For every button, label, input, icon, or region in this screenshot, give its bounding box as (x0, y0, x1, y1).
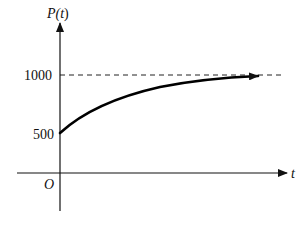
origin-label: O (44, 177, 54, 192)
population-curve (60, 76, 258, 133)
x-axis-label: t (291, 166, 296, 181)
y-axis-label: P(t) (46, 6, 69, 22)
tick-label-500: 500 (33, 127, 54, 142)
population-graph: P(t) 1000 500 O t (0, 0, 305, 226)
tick-label-1000: 1000 (24, 68, 52, 83)
